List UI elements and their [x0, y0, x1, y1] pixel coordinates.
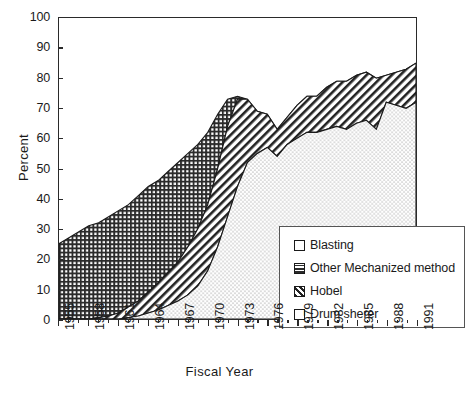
y-tick-mark	[58, 47, 63, 48]
x-tick-mark-minor	[257, 320, 258, 323]
x-tick-mark-minor	[68, 320, 69, 323]
y-axis-title: Percent	[16, 113, 31, 203]
x-tick-mark-major	[297, 320, 298, 326]
y-tick-mark	[58, 138, 63, 139]
x-tick-label: 1964	[154, 316, 167, 330]
legend-item-hobel: Hobel	[294, 280, 464, 303]
x-tick-mark-minor	[337, 320, 338, 323]
x-tick-mark-minor	[407, 320, 408, 323]
x-tick-mark-major	[387, 320, 388, 326]
y-tick-mark	[58, 199, 63, 200]
y-tick-label: 90	[36, 41, 50, 53]
y-tick-mark	[58, 169, 63, 170]
x-tick-label: 1991	[423, 316, 436, 330]
y-tick-mark	[58, 17, 63, 18]
x-tick-mark-minor	[168, 320, 169, 323]
x-tick-mark-minor	[287, 320, 288, 323]
x-tick-mark-minor	[377, 320, 378, 323]
x-tick-mark-minor	[128, 320, 129, 323]
y-tick-mark	[58, 259, 63, 260]
x-tick-label: 1979	[303, 316, 316, 330]
x-tick-mark-major	[58, 320, 59, 326]
x-tick-label: 1973	[244, 316, 257, 330]
legend-label: Hobel	[310, 285, 342, 298]
crosshatch-swatch-icon	[294, 263, 305, 274]
x-tick-mark-major	[88, 320, 89, 326]
x-axis-title: Fiscal Year	[0, 364, 439, 379]
y-tick-mark	[58, 78, 63, 79]
plot-area: Blasting Other Mechanized method Hobel D…	[58, 17, 417, 320]
y-tick-label: 80	[36, 72, 50, 84]
x-tick-label: 1967	[184, 316, 197, 330]
x-tick-label: 1988	[393, 316, 406, 330]
y-tick-mark	[58, 290, 63, 291]
diagonal-hatch-swatch-icon	[294, 286, 305, 297]
x-tick-label: 1955	[64, 316, 77, 330]
x-tick-label: 1982	[333, 316, 346, 330]
x-tick-mark-minor	[277, 320, 278, 323]
x-tick-mark-major	[417, 320, 418, 326]
y-tick-label: 60	[36, 132, 50, 144]
legend-label: Other Mechanized method	[310, 262, 455, 275]
x-tick-label: 1958	[94, 316, 107, 330]
x-tick-label: 1985	[363, 316, 376, 330]
x-tick-mark-minor	[108, 320, 109, 323]
legend-item-other-mechanized-method: Other Mechanized method	[294, 257, 464, 280]
x-tick-mark-major	[118, 320, 119, 326]
x-tick-mark-major	[178, 320, 179, 326]
x-tick-mark-minor	[158, 320, 159, 323]
x-tick-label: 1961	[124, 316, 137, 330]
x-tick-mark-minor	[307, 320, 308, 323]
y-tick-label: 70	[36, 102, 50, 114]
x-tick-label: 1970	[214, 316, 227, 330]
caption-remnant	[0, 381, 439, 399]
x-tick-mark-minor	[138, 320, 139, 323]
x-tick-mark-major	[238, 320, 239, 326]
x-tick-label: 1976	[273, 316, 286, 330]
y-tick-label: 100	[30, 11, 50, 23]
y-tick-mark	[58, 108, 63, 109]
x-tick-mark-major	[357, 320, 358, 326]
x-tick-mark-minor	[228, 320, 229, 323]
x-tick-mark-major	[208, 320, 209, 326]
y-tick-label: 10	[36, 284, 50, 296]
x-tick-mark-major	[267, 320, 268, 326]
x-tick-mark-minor	[188, 320, 189, 323]
x-tick-mark-minor	[317, 320, 318, 323]
y-tick-label: 40	[36, 193, 50, 205]
legend-label: Blasting	[310, 239, 354, 252]
blank-swatch-icon	[294, 240, 305, 251]
x-tick-mark-minor	[347, 320, 348, 323]
x-tick-mark-minor	[198, 320, 199, 323]
x-tick-mark-minor	[78, 320, 79, 323]
legend-item-blasting: Blasting	[294, 234, 464, 257]
y-tick-label: 20	[36, 253, 50, 265]
x-tick-mark-minor	[218, 320, 219, 323]
x-tick-mark-minor	[397, 320, 398, 323]
x-tick-mark-major	[148, 320, 149, 326]
y-tick-label: 50	[36, 163, 50, 175]
y-tick-mark	[58, 229, 63, 230]
x-tick-mark-minor	[247, 320, 248, 323]
x-tick-mark-minor	[367, 320, 368, 323]
x-tick-mark-minor	[98, 320, 99, 323]
legend-item-drum-sherer: Drum sherer	[294, 303, 464, 326]
y-tick-label: 0	[43, 314, 50, 326]
y-tick-label: 30	[36, 223, 50, 235]
x-tick-mark-major	[327, 320, 328, 326]
